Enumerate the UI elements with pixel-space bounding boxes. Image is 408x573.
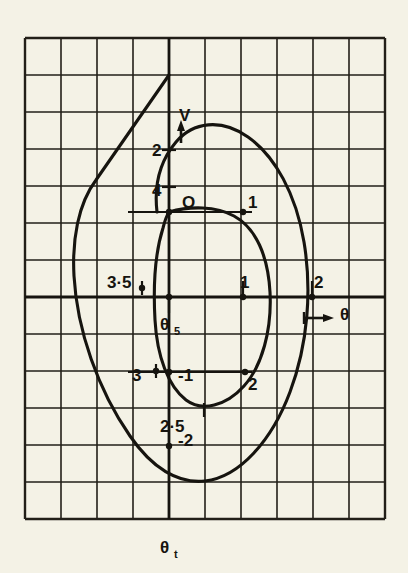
label-tick-label-2: 4 (152, 181, 162, 200)
bottom-caption-sub: t (174, 548, 178, 560)
label-tick-label-7: 2 (314, 273, 323, 292)
center-dot (166, 294, 172, 300)
label-tick-label-1: 2 (152, 141, 161, 160)
label-point-label-4: 1 (248, 193, 257, 212)
label-point-label-11: 2 (248, 375, 257, 394)
label-point-label-5: 3·5 (107, 273, 132, 292)
label-tick-label-13: -2 (178, 431, 193, 450)
origin-dot (166, 209, 172, 215)
point-minus1-dot (166, 369, 172, 375)
label-origin-3: O (182, 193, 195, 212)
center-label-sub: 5 (174, 325, 180, 337)
phase-plane-figure: V24O13·512θ3-122·5-2 θ 5 θ t (0, 0, 408, 573)
figure-page: V24O13·512θ3-122·5-2 θ 5 θ t (0, 0, 408, 573)
label-point-label-9: 3 (132, 366, 141, 385)
point-1h-dot (240, 294, 246, 300)
point-3-dot (153, 368, 159, 374)
point-35-dot (139, 285, 145, 291)
bottom-caption-theta: θ (160, 538, 169, 557)
point-2h-dot (309, 294, 315, 300)
label-horizontal-axis-name-8: θ (340, 305, 349, 324)
label-vertical-axis-name-0: V (179, 106, 191, 125)
point-1-dot (240, 209, 246, 215)
label-tick-label-10: -1 (178, 366, 193, 385)
center-label-theta: θ (160, 315, 169, 334)
point-minus2-dot (166, 443, 172, 449)
label-tick-label-6: 1 (240, 273, 249, 292)
